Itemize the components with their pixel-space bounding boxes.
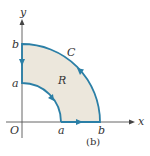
quarter-annulus-diagram: y x O a b b a C R (b): [0, 0, 150, 156]
b-y-tick-label: b: [12, 38, 19, 51]
y-axis-arrowhead-icon: [20, 19, 25, 25]
a-x-tick-label: a: [58, 124, 65, 137]
x-axis-label: x: [138, 115, 145, 128]
y-axis-label: y: [19, 6, 27, 19]
region-r-label: R: [57, 74, 66, 87]
figure-caption: (b): [86, 136, 100, 147]
a-y-tick-label: a: [12, 77, 19, 90]
curve-c-label: C: [67, 46, 76, 59]
origin-label: O: [10, 124, 19, 137]
x-axis-arrowhead-icon: [129, 120, 135, 125]
